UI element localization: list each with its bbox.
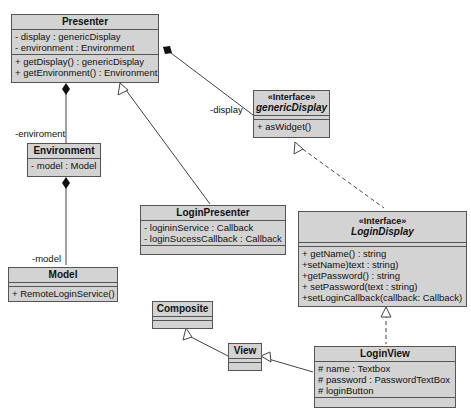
generalization-arrow-icon [118,83,128,95]
class-header: «Interface» LoginDisplay [299,212,466,243]
operations-section [141,246,285,249]
role-label-environment: -enviroment [15,128,65,139]
operations-section: + getName() : string +setName)text : str… [299,247,466,304]
attribute: # loginButton [318,385,452,396]
class-model[interactable]: Model + RemoteLoginService() [8,267,118,302]
class-name: Composite [153,302,212,317]
operation: + getEnvironment() : Environment [15,67,155,78]
attribute: - logininService : Callback [144,222,282,233]
class-header: «Interface» genericDisplay [254,91,329,116]
attribute: - loginSucessCallback : Callback [144,233,282,244]
attributes-section: - logininService : Callback - loginSuces… [141,221,285,246]
class-name: LoginView [315,347,455,362]
attribute: - display : genericDisplay [15,31,155,42]
class-presenter[interactable]: Presenter - display : genericDisplay - e… [11,14,159,83]
attribute: - environment : Environment [15,42,155,53]
operation: +setLoginCallback(callback: Callback) [302,292,463,303]
attribute: # name : Textbox [318,363,452,374]
class-login-presenter[interactable]: LoginPresenter - logininService : Callba… [140,205,286,255]
class-name: Environment [28,144,100,159]
attributes-section: - display : genericDisplay - environment… [12,30,158,55]
operations-section [153,321,212,324]
class-login-view[interactable]: LoginView # name : Textbox # password : … [314,346,456,408]
generalization-arrow-icon [261,352,271,362]
realization-arrow-icon [294,142,303,154]
operations-section: + getDisplay() : genericDisplay + getEnv… [12,55,158,79]
class-name: LoginPresenter [141,206,285,221]
role-label-model: -model [32,253,61,264]
class-name: genericDisplay [256,102,327,113]
operation: + asWidget() [257,121,326,132]
operations-section: + RemoteLoginService() [9,287,117,300]
operations-section [315,398,455,401]
stereotype: «Interface» [301,216,464,226]
attributes-section: # name : Textbox # password : PasswordTe… [315,362,455,398]
operation: + getName() : string [302,248,463,259]
operation: + getDisplay() : genericDisplay [15,56,155,67]
class-view[interactable]: View [228,343,262,371]
attribute: - model : Model [31,160,97,171]
class-name: Model [9,268,117,283]
operations-section [229,363,261,366]
attribute: # password : PasswordTextBox [318,374,452,385]
class-name: Presenter [12,15,158,30]
stereotype: «Interface» [256,92,327,102]
operations-section: + asWidget() [254,120,329,133]
class-generic-display[interactable]: «Interface» genericDisplay + asWidget() [253,90,330,138]
operation: + setPassword(text : string) [302,281,463,292]
class-name: LoginDisplay [301,226,464,237]
realization-arrow-icon [381,307,391,317]
generalization-arrow-icon [183,328,192,340]
class-composite[interactable]: Composite [152,301,213,329]
operation: + RemoteLoginService() [12,288,114,299]
class-name: View [229,344,261,359]
operation: +setName)text : string) [302,259,463,270]
composition-diamond-icon [62,83,70,95]
operation: +getPassword() : string [302,270,463,281]
attributes-section: - model : Model [28,159,100,172]
class-login-display[interactable]: «Interface» LoginDisplay + getName() : s… [298,211,467,307]
role-label-display: -display [210,104,243,115]
class-environment[interactable]: Environment - model : Model [27,143,101,177]
composition-diamond-icon [163,46,172,54]
composition-diamond-icon [62,177,70,189]
